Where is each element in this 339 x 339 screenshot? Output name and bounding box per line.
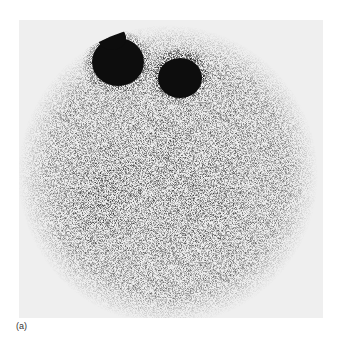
scintigram-image bbox=[19, 20, 323, 318]
upper-right-hot-spot bbox=[158, 58, 202, 98]
upper-left-small-hot-spot bbox=[98, 26, 126, 50]
left-lung-region bbox=[55, 135, 145, 265]
figure-caption: (a) bbox=[16, 321, 27, 331]
detector-field bbox=[19, 25, 318, 318]
scan-image-frame bbox=[19, 20, 323, 318]
right-lung-region bbox=[155, 130, 265, 270]
